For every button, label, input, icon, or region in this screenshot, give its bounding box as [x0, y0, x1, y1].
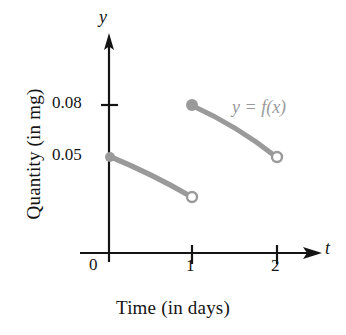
y-axis-variable-label: y — [99, 7, 107, 28]
x-axis — [80, 247, 322, 259]
point-open-1-0.032 — [187, 192, 197, 202]
x-tick-label-1: 1 — [186, 256, 195, 276]
x-axis-variable-label: t — [325, 238, 330, 259]
x-tick-label-0: 0 — [89, 255, 98, 275]
chart-figure: y t 0.08 0.05 0 1 2 y = f(x) Time (in da… — [0, 0, 346, 335]
curve-branch-1 — [111, 157, 190, 196]
y-tick-label-0.08: 0.08 — [52, 93, 82, 113]
y-axis-title: Quantity (in mg) — [23, 59, 45, 249]
point-open-2-0.05 — [272, 152, 282, 162]
point-closed-1-0.08 — [186, 99, 198, 111]
y-axis — [104, 33, 114, 262]
curve-annotation-label: y = f(x) — [232, 97, 286, 118]
chart-plot-area — [0, 0, 346, 335]
y-tick-label-0.05: 0.05 — [52, 145, 82, 165]
x-tick-label-2: 2 — [271, 256, 280, 276]
x-axis-title: Time (in days) — [0, 297, 346, 319]
point-closed-0-0.05 — [105, 152, 115, 162]
